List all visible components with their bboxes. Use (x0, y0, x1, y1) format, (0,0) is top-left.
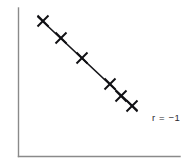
correlation-scatter-figure: r = −1 (0, 0, 193, 162)
plot-area: r = −1 (0, 0, 193, 162)
data-point-marker (127, 101, 138, 112)
data-point-marker (116, 91, 127, 102)
data-point-marker (77, 53, 88, 64)
data-point-marker (38, 16, 49, 27)
data-point-marker (105, 79, 116, 90)
data-point-marker (56, 33, 67, 44)
correlation-annotation: r = −1 (152, 112, 180, 123)
